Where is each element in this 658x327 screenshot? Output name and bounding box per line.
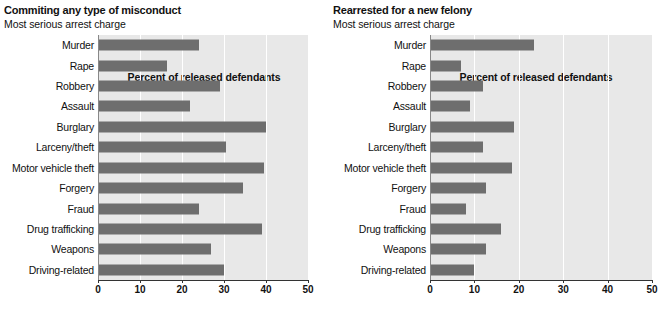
- y-axis-line: [430, 35, 431, 280]
- category-label: Motor vehicle theft: [2, 162, 98, 174]
- category-label: Robbery: [2, 80, 98, 92]
- x-axis-tick: [308, 280, 309, 283]
- plot-area-right: MurderRapeRobberyAssaultBurglaryLarceny/…: [331, 35, 653, 287]
- x-axis-tick-label: 0: [427, 284, 433, 295]
- x-axis-tick-label: 50: [646, 284, 657, 295]
- x-axis-tick-label: 50: [302, 284, 313, 295]
- gridline: [608, 35, 609, 280]
- bar: [430, 60, 461, 71]
- x-axis-tick-label: 10: [469, 284, 480, 295]
- y-axis-line: [98, 35, 99, 280]
- panel-title-left: Commiting any type of misconduct: [4, 4, 326, 17]
- category-label: Burglary: [2, 121, 98, 133]
- bar: [430, 142, 483, 153]
- plot-area-left: MurderRapeRobberyAssaultBurglaryLarceny/…: [2, 35, 326, 287]
- bar: [430, 101, 470, 112]
- x-axis-tick-label: 40: [260, 284, 271, 295]
- x-axis-tick-label: 30: [558, 284, 569, 295]
- panel-subtitle-left: Most serious arrest charge: [4, 18, 326, 31]
- category-label: Burglary: [331, 121, 430, 133]
- bar: [430, 203, 466, 214]
- category-label: Forgery: [331, 182, 430, 194]
- category-label: Assault: [2, 100, 98, 112]
- category-label: Larceny/theft: [2, 141, 98, 153]
- gridline: [652, 35, 653, 280]
- gridline: [308, 35, 309, 280]
- category-label: Driving-related: [2, 264, 98, 276]
- gridline: [563, 35, 564, 280]
- x-axis-tick-label: 40: [602, 284, 613, 295]
- bar: [430, 162, 512, 173]
- bar: [98, 142, 226, 153]
- bar: [98, 244, 211, 255]
- bar: [430, 264, 474, 275]
- gridline: [224, 35, 225, 280]
- category-label: Murder: [331, 39, 430, 51]
- bar: [98, 121, 266, 132]
- bar: [98, 183, 243, 194]
- x-axis-tick: [652, 280, 653, 283]
- x-axis-tick-label: 20: [513, 284, 524, 295]
- bar: [430, 81, 483, 92]
- category-label: Robbery: [331, 80, 430, 92]
- chart-panel-rearrested: Rearrested for a new felony Most serious…: [326, 0, 653, 327]
- category-label: Weapons: [2, 243, 98, 255]
- chart-panel-misconduct: Commiting any type of misconduct Most se…: [0, 0, 326, 327]
- bar: [98, 81, 220, 92]
- bar: [98, 40, 199, 51]
- x-axis-line: [98, 280, 308, 281]
- category-label: Fraud: [331, 203, 430, 215]
- gridline: [266, 35, 267, 280]
- panel-subtitle-right: Most serious arrest charge: [333, 18, 653, 31]
- bar: [98, 101, 190, 112]
- x-axis-tick-label: 10: [134, 284, 145, 295]
- bar: [98, 203, 199, 214]
- category-label: Forgery: [2, 182, 98, 194]
- bar: [430, 40, 534, 51]
- category-label: Drug trafficking: [331, 223, 430, 235]
- category-label: Motor vehicle theft: [331, 162, 430, 174]
- bar: [98, 224, 262, 235]
- bar: [430, 121, 514, 132]
- bar: [98, 162, 264, 173]
- category-label: Rape: [2, 60, 98, 72]
- category-label: Larceny/theft: [331, 141, 430, 153]
- x-axis-tick-label: 30: [218, 284, 229, 295]
- bar: [430, 244, 486, 255]
- category-label: Driving-related: [331, 264, 430, 276]
- bar: [430, 183, 486, 194]
- category-label: Fraud: [2, 203, 98, 215]
- panel-title-right: Rearrested for a new felony: [333, 4, 653, 17]
- category-label: Drug trafficking: [2, 223, 98, 235]
- category-label: Murder: [2, 39, 98, 51]
- bar: [98, 60, 167, 71]
- category-label: Weapons: [331, 243, 430, 255]
- x-axis-tick-label: 20: [176, 284, 187, 295]
- bar: [430, 224, 501, 235]
- category-label: Assault: [331, 100, 430, 112]
- bar: [98, 264, 224, 275]
- category-label: Rape: [331, 60, 430, 72]
- gridline: [519, 35, 520, 280]
- x-axis-line: [430, 280, 652, 281]
- x-axis-tick-label: 0: [95, 284, 101, 295]
